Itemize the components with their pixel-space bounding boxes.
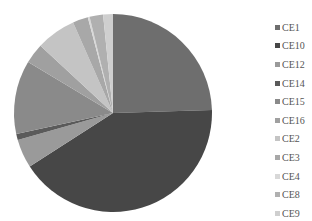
legend-swatch [275, 99, 280, 104]
legend-item-ce10: CE10 [275, 37, 305, 56]
legend-label: CE8 [282, 189, 300, 200]
legend-item-ce9: CE9 [275, 204, 305, 221]
legend-swatch [275, 81, 280, 86]
legend-label: CE4 [282, 171, 300, 182]
legend-swatch [275, 25, 280, 30]
legend-item-ce16: CE16 [275, 111, 305, 130]
legend-label: CE2 [282, 133, 300, 144]
pie-chart [0, 0, 230, 221]
legend-item-ce1: CE1 [275, 18, 305, 37]
legend-label: CE10 [282, 40, 305, 51]
legend-swatch [275, 211, 280, 216]
legend-label: CE9 [282, 208, 300, 219]
legend-label: CE1 [282, 22, 300, 33]
legend-item-ce2: CE2 [275, 130, 305, 149]
legend-item-ce8: CE8 [275, 185, 305, 204]
legend-swatch [275, 118, 280, 123]
legend-swatch [275, 155, 280, 160]
legend-item-ce3: CE3 [275, 148, 305, 167]
legend-item-ce4: CE4 [275, 167, 305, 186]
legend-item-ce14: CE14 [275, 74, 305, 93]
pie-slice-ce1 [113, 14, 212, 113]
legend-label: CE14 [282, 78, 305, 89]
legend-label: CE3 [282, 152, 300, 163]
legend-swatch [275, 174, 280, 179]
legend-label: CE15 [282, 96, 305, 107]
legend-swatch [275, 136, 280, 141]
legend-swatch [275, 62, 280, 67]
legend-swatch [275, 192, 280, 197]
legend-item-ce12: CE12 [275, 55, 305, 74]
legend-label: CE16 [282, 115, 305, 126]
legend: CE1CE10CE12CE14CE15CE16CE2CE3CE4CE8CE9 [275, 18, 305, 221]
legend-item-ce15: CE15 [275, 92, 305, 111]
legend-swatch [275, 43, 280, 48]
legend-label: CE12 [282, 59, 305, 70]
